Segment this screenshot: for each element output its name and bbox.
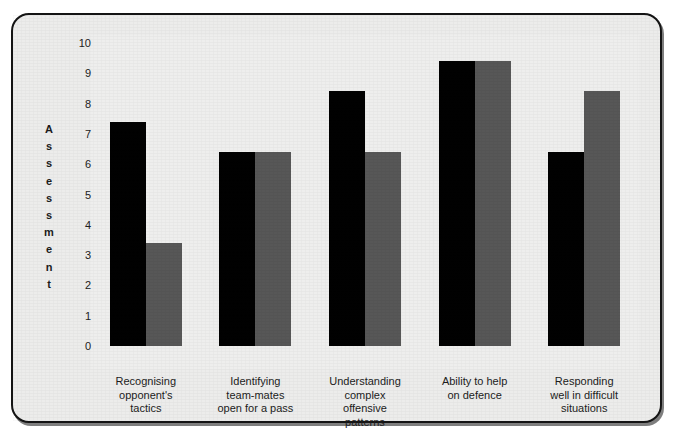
bar (329, 91, 365, 346)
x-axis-category-label-line: Ability to help (420, 375, 530, 389)
x-axis-category-label-line: offensive (310, 402, 420, 416)
bar-group (439, 35, 511, 346)
x-axis-category-label: Recognisingopponent'stactics (91, 375, 201, 416)
x-axis-category-label-line: Responding (529, 375, 639, 389)
chart-frame: Assessment 109876543210 Recognisingoppon… (11, 13, 662, 423)
bar-group (110, 35, 182, 346)
x-axis-category-label: Respondingwell in difficultsituations (529, 375, 639, 416)
bars-layer (13, 15, 664, 425)
bar-group (548, 35, 620, 346)
bar (255, 152, 291, 346)
x-axis-category-label-line: team-mates (201, 389, 311, 403)
x-axis-category-label-line: situations (529, 402, 639, 416)
bar (475, 61, 511, 346)
chart-screenshot: Assessment 109876543210 Recognisingoppon… (0, 0, 675, 433)
bar (110, 122, 146, 346)
bar (439, 61, 475, 346)
x-axis-category-label: Understandingcomplexoffensivepatterns (310, 375, 420, 429)
bar (219, 152, 255, 346)
x-axis-category-label-line: Identifying (201, 375, 311, 389)
x-axis-category-label-line: well in difficult (529, 389, 639, 403)
x-axis-category-label-line: Understanding (310, 375, 420, 389)
bar (584, 91, 620, 346)
bar (365, 152, 401, 346)
x-axis-category-label-line: on defence (420, 389, 530, 403)
x-axis-category-label: Identifyingteam-matesopen for a pass (201, 375, 311, 416)
x-axis-category-label-line: patterns (310, 416, 420, 430)
x-axis-category-label-line: tactics (91, 402, 201, 416)
x-axis-category-label-line: open for a pass (201, 402, 311, 416)
bar (548, 152, 584, 346)
x-axis-category-label: Ability to helpon defence (420, 375, 530, 402)
x-axis-category-label-line: opponent's (91, 389, 201, 403)
x-axis-category-label-line: complex (310, 389, 420, 403)
bar-group (219, 35, 291, 346)
x-axis-category-label-line: Recognising (91, 375, 201, 389)
bar-group (329, 35, 401, 346)
bar (146, 243, 182, 346)
